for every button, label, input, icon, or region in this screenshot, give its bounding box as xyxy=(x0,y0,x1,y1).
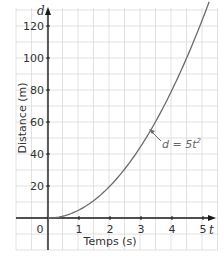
y-tick-label: 20 xyxy=(30,180,44,193)
y-tick-label: 40 xyxy=(30,148,44,161)
chart: d = 5t2 012345 20406080100120 d t Temps … xyxy=(0,0,224,265)
x-tick-labels: 012345 xyxy=(37,216,207,236)
y-var-label: d xyxy=(37,4,45,18)
x-axis-title: Temps (s) xyxy=(83,235,137,248)
y-tick-label: 80 xyxy=(30,84,44,97)
y-tick-label: 100 xyxy=(23,52,44,65)
x-tick-label: 3 xyxy=(138,223,145,236)
x-tick-label: 0 xyxy=(37,223,44,236)
y-axis-arrow-icon xyxy=(45,7,51,15)
x-tick-label: 5 xyxy=(200,223,207,236)
x-var-label: t xyxy=(209,223,214,237)
equation-label: d = 5t2 xyxy=(162,137,202,151)
y-axis-title: Distance (m) xyxy=(16,83,29,154)
y-tick-label: 60 xyxy=(30,116,44,129)
y-tick-label: 120 xyxy=(23,20,44,33)
grid xyxy=(16,8,218,250)
curve-d-5t2 xyxy=(48,2,209,218)
x-tick-label: 4 xyxy=(169,223,176,236)
x-axis-arrow-icon xyxy=(208,215,216,221)
x-tick-label: 1 xyxy=(76,223,83,236)
